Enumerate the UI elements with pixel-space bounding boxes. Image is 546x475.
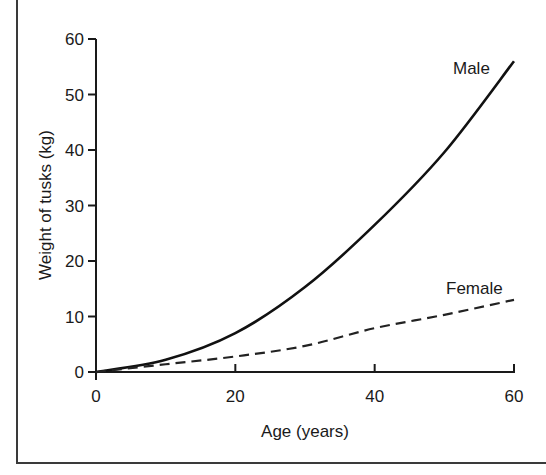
x-axis-title: Age (years) [261,422,349,441]
x-axis: 0204060 [88,364,523,406]
male-series-label: Male [453,59,490,78]
female-series-label: Female [446,279,503,298]
x-tick-label: 40 [365,387,384,406]
y-tick-label: 40 [65,141,84,160]
y-axis: 0102030405060 [65,30,96,382]
y-tick-label: 20 [65,252,84,271]
y-tick-label: 60 [65,30,84,49]
y-axis-title: Weight of tusks (kg) [36,130,55,280]
x-tick-label: 60 [505,387,524,406]
chart: 0102030405060 0204060 Weight of tusks (k… [0,0,546,475]
y-tick-label: 0 [75,363,84,382]
y-tick-label: 30 [65,197,84,216]
x-tick-label: 20 [226,387,245,406]
y-tick-label: 10 [65,308,84,327]
male-series-line [96,61,514,372]
y-tick-label: 50 [65,86,84,105]
x-tick-label: 0 [91,387,100,406]
